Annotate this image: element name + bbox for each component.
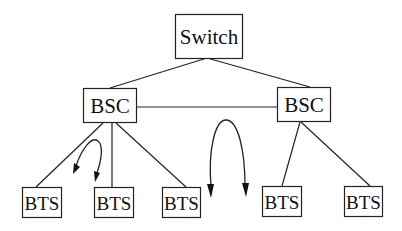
link-bsc-right-bts-4 — [282, 122, 300, 186]
bts-2-node: BTS — [95, 188, 134, 218]
link-switch-bsc-left — [110, 58, 207, 88]
bts-5-label: BTS — [346, 192, 381, 213]
bts-2-label: BTS — [97, 193, 132, 214]
bts-3-node: BTS — [163, 188, 201, 218]
link-bsc-left-bts-1 — [36, 123, 103, 187]
bsc-left-node: BSC — [84, 89, 137, 123]
inter-bsc-handoff-arrow — [207, 120, 249, 198]
bts-1-label: BTS — [25, 193, 60, 214]
network-diagram: Switch BSC BSC BTS BTS BTS BTS BTS — [0, 0, 402, 231]
bts-1-node: BTS — [23, 188, 62, 218]
bts-4-node: BTS — [263, 187, 302, 217]
switch-node: Switch — [176, 15, 243, 59]
bts-5-node: BTS — [345, 187, 383, 217]
link-bsc-left-bts-3 — [116, 123, 186, 187]
arrowhead-left — [207, 184, 214, 198]
arrowhead-right — [94, 171, 100, 182]
bsc-left-label: BSC — [90, 94, 130, 118]
bts-4-label: BTS — [265, 192, 300, 213]
link-switch-bsc-right — [207, 58, 310, 87]
link-bsc-right-bts-5 — [301, 122, 370, 186]
switch-label: Switch — [180, 25, 239, 49]
bsc-right-node: BSC — [278, 88, 331, 122]
intra-bsc-handoff-arrow — [73, 140, 101, 182]
bsc-right-label: BSC — [284, 93, 324, 117]
bts-3-label: BTS — [164, 193, 199, 214]
arrowhead-right — [242, 183, 249, 197]
